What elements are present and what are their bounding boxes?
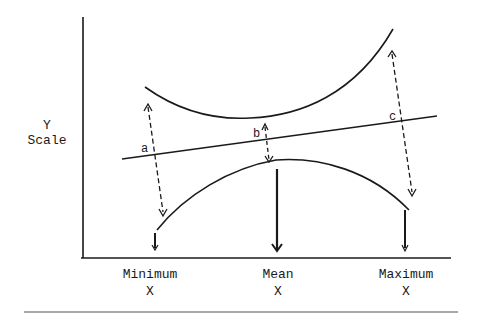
lower-confidence-band [157, 160, 409, 230]
x-label-mean: Mean X [243, 267, 313, 299]
x-label-maximum-line1: Maximum [371, 267, 441, 282]
arrow-to-mean-x [272, 169, 282, 251]
x-label-mean-line2: X [243, 284, 313, 299]
x-label-maximum-line2: X [371, 284, 441, 299]
x-label-mean-line1: Mean [243, 267, 313, 282]
point-label-c: c [389, 111, 396, 123]
y-axis-label-line2: Scale [22, 133, 72, 148]
y-axis-label-line1: Y [22, 118, 72, 133]
dashed-arrow-b [262, 124, 273, 162]
x-label-minimum-line2: X [115, 284, 185, 299]
x-label-minimum-line1: Minimum [115, 267, 185, 282]
point-label-a: a [141, 143, 148, 155]
upper-confidence-band [145, 29, 393, 118]
x-label-minimum: Minimum X [115, 267, 185, 299]
x-label-maximum: Maximum X [371, 267, 441, 299]
arrow-to-maximum-x [402, 210, 408, 251]
y-axis-label: Y Scale [22, 118, 72, 148]
dashed-arrow-a [144, 104, 167, 216]
point-label-b: b [253, 128, 260, 140]
arrow-to-minimum-x [152, 233, 158, 250]
